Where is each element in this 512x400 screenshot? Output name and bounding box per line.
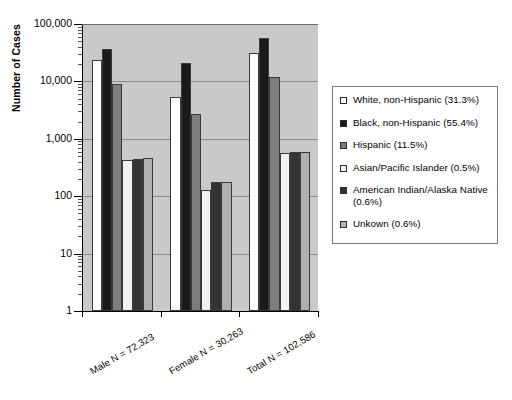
legend-item[interactable]: American Indian/Alaska Native (0.6%): [340, 184, 491, 207]
legend-swatch-icon: [340, 142, 347, 149]
y-tick-mark: [74, 196, 82, 197]
bar: [269, 77, 279, 311]
chart-root: Number of Cases 1101001,00010,000100,000…: [0, 0, 512, 400]
y-tick-label: 10: [6, 248, 72, 259]
x-tick-mark: [82, 311, 83, 317]
bar: [191, 114, 201, 311]
bar: [122, 160, 132, 311]
legend-item[interactable]: Unkown (0.6%): [340, 218, 491, 230]
legend-label: Hispanic (11.5%): [353, 139, 428, 151]
bar: [201, 190, 211, 311]
legend-item[interactable]: Black, non-Hispanic (55.4%): [340, 117, 491, 129]
x-tick-mark: [161, 311, 162, 317]
bar: [221, 182, 231, 311]
plot-top-border: [82, 24, 318, 25]
bar: [143, 158, 153, 311]
x-category-label: Female N = 30,263: [167, 325, 245, 376]
legend-swatch-icon: [340, 97, 347, 104]
y-tick-mark: [74, 139, 82, 140]
legend-item[interactable]: Asian/Pacific Islander (0.5%): [340, 162, 491, 174]
y-tick-label: 100: [6, 190, 72, 201]
bar: [300, 152, 310, 311]
legend-item[interactable]: White, non-Hispanic (31.3%): [340, 94, 491, 106]
bar: [211, 182, 221, 311]
x-category-label: Male N = 72,323: [88, 331, 156, 377]
bar: [181, 63, 191, 311]
gridline: [83, 81, 318, 82]
y-tick-label: 10,000: [6, 75, 72, 86]
legend-label: White, non-Hispanic (31.3%): [353, 94, 479, 106]
y-tick-mark: [74, 24, 82, 25]
bar: [259, 38, 269, 311]
y-tick-mark: [74, 254, 82, 255]
bar: [290, 152, 300, 311]
x-tick-mark: [318, 311, 319, 317]
legend-swatch-icon: [340, 165, 347, 172]
y-tick-mark: [74, 311, 82, 312]
chart-legend: White, non-Hispanic (31.3%)Black, non-Hi…: [332, 86, 498, 244]
legend-label: Asian/Pacific Islander (0.5%): [353, 162, 480, 174]
bar: [170, 97, 180, 311]
legend-swatch-icon: [340, 221, 347, 228]
bar: [133, 159, 143, 311]
legend-label: American Indian/Alaska Native (0.6%): [353, 184, 491, 207]
x-axis-line: [82, 311, 319, 312]
y-tick-label: 100,000: [6, 18, 72, 29]
legend-label: Black, non-Hispanic (55.4%): [353, 117, 478, 129]
bar: [112, 84, 122, 311]
x-tick-mark: [239, 311, 240, 317]
bar: [92, 60, 102, 311]
bar: [249, 53, 259, 311]
plot-area: [82, 24, 318, 311]
legend-swatch-icon: [340, 187, 347, 194]
bar: [102, 49, 112, 311]
legend-label: Unkown (0.6%): [353, 218, 421, 230]
y-axis: 1101001,00010,000100,000: [0, 0, 72, 400]
y-tick-label: 1,000: [6, 133, 72, 144]
legend-swatch-icon: [340, 120, 347, 127]
y-tick-label: 1: [6, 305, 72, 316]
bar: [280, 153, 290, 311]
y-tick-mark: [74, 81, 82, 82]
legend-item[interactable]: Hispanic (11.5%): [340, 139, 491, 151]
x-category-label: Total N = 102,586: [245, 328, 317, 376]
